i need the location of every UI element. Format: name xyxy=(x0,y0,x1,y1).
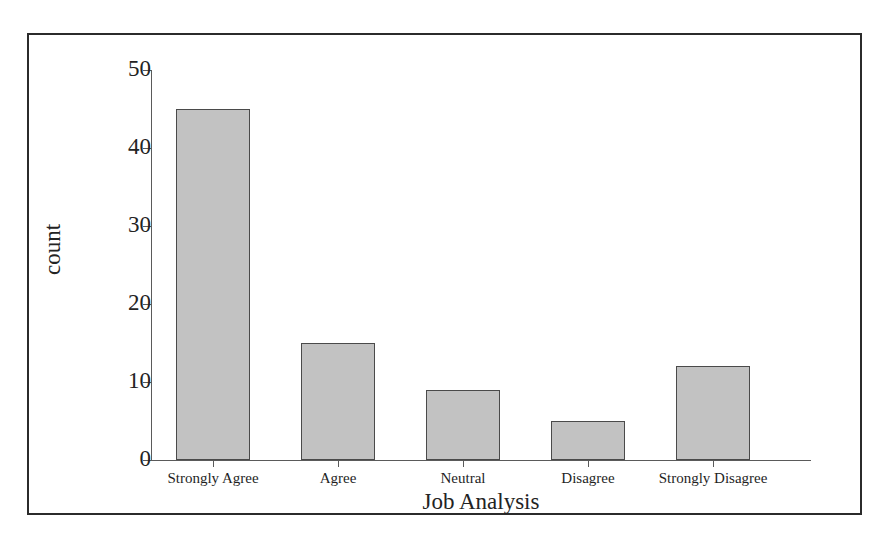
x-axis-tick xyxy=(463,460,464,467)
x-axis-line xyxy=(151,460,811,461)
y-axis-tick-label: 10 xyxy=(105,369,151,392)
bar-strongly-disagree xyxy=(676,366,750,460)
x-axis-tick xyxy=(213,460,214,467)
y-axis-tick-label: 20 xyxy=(105,291,151,314)
x-axis-title: Job Analysis xyxy=(151,489,811,514)
y-axis-tick-label-wrap: 40 xyxy=(85,148,151,149)
y-axis-tick-label: 30 xyxy=(105,213,151,236)
y-axis-tick-label: 0 xyxy=(105,447,151,470)
bar-neutral xyxy=(426,390,500,460)
y-axis-tick-label: 50 xyxy=(105,57,151,80)
chart-figure: 50 40 30 20 10 0 xyxy=(0,0,889,542)
plot-area: 50 40 30 20 10 0 xyxy=(0,0,889,542)
bar-disagree xyxy=(551,421,625,460)
y-axis-tick-label-wrap: 10 xyxy=(85,382,151,383)
y-axis-tick-label-wrap: 50 xyxy=(85,70,151,71)
y-axis-tick-label: 40 xyxy=(105,135,151,158)
y-axis-line xyxy=(151,70,152,461)
x-axis-tick xyxy=(338,460,339,467)
y-axis-tick-label-wrap: 0 xyxy=(85,460,151,461)
x-axis-category-label: Strongly Disagree xyxy=(613,470,813,487)
bar-strongly-agree xyxy=(176,109,250,460)
bar-agree xyxy=(301,343,375,460)
x-axis-tick xyxy=(713,460,714,467)
x-axis-tick xyxy=(588,460,589,467)
y-axis-title: count xyxy=(41,190,64,310)
y-axis-tick-label-wrap: 20 xyxy=(85,304,151,305)
y-axis-tick-label-wrap: 30 xyxy=(85,226,151,227)
